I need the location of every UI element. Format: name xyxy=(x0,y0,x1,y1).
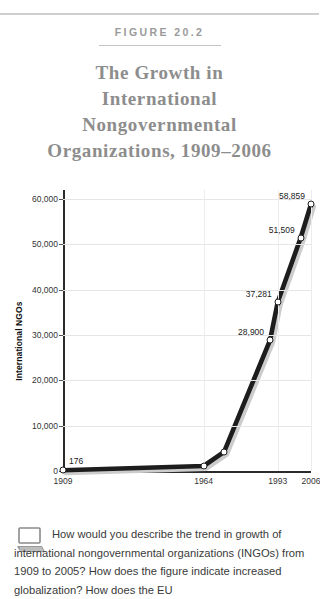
data-point-marker xyxy=(267,337,274,344)
data-point-label: 51,509 xyxy=(269,225,295,235)
figure-header-rule xyxy=(99,45,221,46)
y-axis-tick-mark xyxy=(59,426,63,427)
gridline-horizontal xyxy=(63,244,311,245)
y-axis-tick-mark xyxy=(59,380,63,381)
y-axis-tick-mark xyxy=(59,199,63,200)
figure-title-line-3: Nongovernmental xyxy=(12,112,307,138)
plot-area: 010,00020,00030,00040,00050,00060,000190… xyxy=(63,190,311,471)
figure-title: The Growth in International Nongovernmen… xyxy=(12,60,307,164)
caption-divider xyxy=(14,512,305,513)
data-point-marker xyxy=(221,448,228,455)
y-axis-tick-label: 60,000 xyxy=(32,194,58,204)
figure-header: FIGURE 20.2 xyxy=(0,26,319,46)
data-point-label: 176 xyxy=(69,456,83,466)
data-point-marker xyxy=(274,299,281,306)
gridline-horizontal xyxy=(63,426,311,427)
y-axis-tick-mark xyxy=(59,290,63,291)
y-axis-tick-label: 40,000 xyxy=(32,285,58,295)
caption-text: How would you describe the trend in grow… xyxy=(14,525,308,599)
y-axis-tick-label: 50,000 xyxy=(32,239,58,249)
line-chart: International NGOs 010,00020,00030,00040… xyxy=(0,184,319,496)
x-axis-tick-label: 2006 xyxy=(302,476,320,486)
data-point-label: 28,900 xyxy=(238,327,264,337)
x-axis-tick-label: 1993 xyxy=(268,476,287,486)
gridline-vertical xyxy=(311,190,312,471)
x-axis-tick-label: 1909 xyxy=(54,476,73,486)
data-point-marker xyxy=(308,201,315,208)
caption-block: How would you describe the trend in grow… xyxy=(0,512,319,592)
y-axis-tick-mark xyxy=(59,335,63,336)
data-point-label: 37,281 xyxy=(246,289,272,299)
data-point-marker xyxy=(297,234,304,241)
gridline-horizontal xyxy=(63,380,311,381)
y-axis-tick-label: 0 xyxy=(53,466,58,476)
figure-title-line-1: The Growth in xyxy=(12,60,307,86)
data-point-marker xyxy=(200,463,207,470)
figure-number-label: FIGURE 20.2 xyxy=(0,26,319,38)
gridline-horizontal xyxy=(63,199,311,200)
gridline-vertical xyxy=(204,190,205,471)
y-axis-title: International NGOs xyxy=(14,281,24,401)
gridline-horizontal xyxy=(63,335,311,336)
gridline-horizontal xyxy=(63,290,311,291)
y-axis-tick-mark xyxy=(59,244,63,245)
y-axis-tick-label: 30,000 xyxy=(32,330,58,340)
figure-title-line-2: International xyxy=(12,86,307,112)
figure-title-line-4: Organizations, 1909–2006 xyxy=(12,138,307,164)
y-axis-tick-label: 10,000 xyxy=(32,421,58,431)
x-axis-tick-label: 1964 xyxy=(194,476,213,486)
page-top-rule xyxy=(0,13,319,15)
data-point-label: 58,859 xyxy=(279,191,305,201)
y-axis-tick-label: 20,000 xyxy=(32,375,58,385)
data-point-marker xyxy=(60,467,67,474)
